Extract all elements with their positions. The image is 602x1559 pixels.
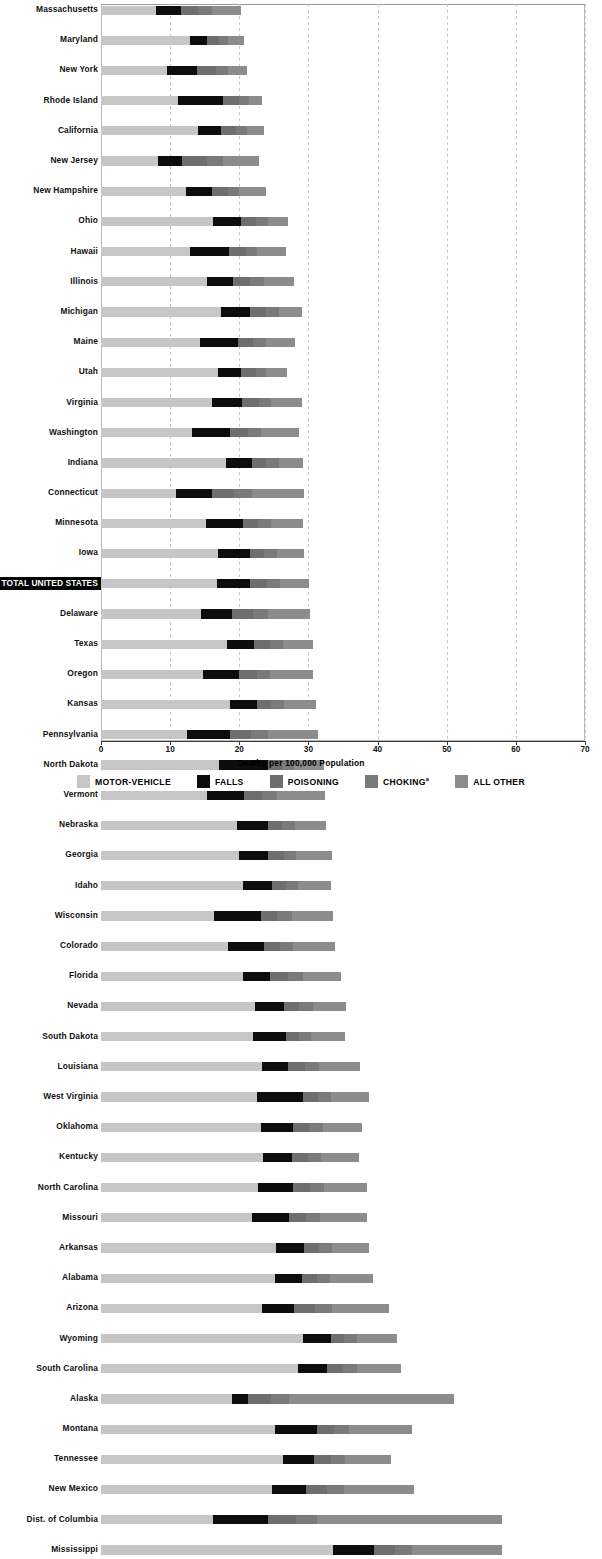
row-label: Missouri: [62, 1212, 98, 1223]
stacked-bar: [101, 519, 303, 528]
bar-segment-fa: [258, 1183, 293, 1192]
bar-segment-ao: [321, 1153, 359, 1162]
row-label: Tennessee: [54, 1453, 98, 1464]
bar-segment-fa: [207, 277, 233, 286]
bar-segment-po: [293, 1183, 310, 1192]
legend-item-ch[interactable]: CHOKINGa: [365, 775, 429, 788]
bar-segment-ch: [262, 791, 277, 800]
bar-segment-ch: [306, 1213, 321, 1222]
bar-segment-fa: [255, 1002, 283, 1011]
row-label: Indiana: [68, 457, 98, 468]
bar-row: Virginia: [0, 397, 602, 412]
bar-row: New Jersey: [0, 155, 602, 170]
bar-segment-ch: [266, 458, 278, 467]
stacked-bar: [101, 1123, 362, 1132]
stacked-bar: [101, 1515, 502, 1524]
stacked-bar: [101, 458, 303, 467]
bar-segment-fa: [207, 791, 244, 800]
legend-label: CHOKINGa: [383, 776, 429, 787]
row-label: Oregon: [67, 668, 98, 679]
bar-segment-ch: [309, 1123, 323, 1132]
bar-segment-po: [242, 398, 259, 407]
legend-item-po[interactable]: POISONING: [270, 775, 339, 788]
legend-item-ao[interactable]: ALL OTHER: [455, 775, 525, 788]
stacked-bar: [101, 247, 286, 256]
bar-segment-ch: [395, 1545, 412, 1554]
bar-segment-ch: [317, 1274, 330, 1283]
bar-segment-ao: [280, 579, 309, 588]
row-label: New Mexico: [49, 1483, 98, 1494]
bar-segment-mv: [101, 428, 192, 437]
bar-segment-ch: [257, 670, 271, 679]
bar-segment-po: [212, 187, 227, 196]
bar-segment-fa: [275, 1274, 302, 1283]
row-label: Minnesota: [55, 517, 98, 528]
bar-segment-po: [331, 1334, 345, 1343]
bar-segment-fa: [257, 1092, 303, 1101]
bar-segment-mv: [101, 1002, 255, 1011]
row-label: South Dakota: [42, 1031, 98, 1042]
legend-item-mv[interactable]: MOTOR-VEHICLE: [77, 775, 171, 788]
bar-segment-po: [243, 519, 258, 528]
bar-segment-mv: [101, 821, 237, 830]
stacked-bar: [101, 1092, 369, 1101]
bar-row: Iowa: [0, 547, 602, 562]
row-label: Vermont: [63, 789, 98, 800]
bar-segment-ch: [305, 1062, 319, 1071]
row-label: Delaware: [60, 608, 98, 619]
bar-row: New Mexico: [0, 1483, 602, 1498]
bar-segment-ao: [349, 1425, 412, 1434]
row-label: Pennsylvania: [43, 729, 98, 740]
bar-segment-mv: [101, 911, 214, 920]
bar-segment-ao: [303, 972, 341, 981]
bar-segment-fa: [203, 670, 239, 679]
bar-segment-fa: [239, 851, 267, 860]
stacked-bar: [101, 972, 341, 981]
stacked-bar: [101, 307, 302, 316]
bar-segment-ao: [311, 1032, 345, 1041]
legend-swatch-po: [270, 775, 283, 788]
stacked-bar: [101, 821, 326, 830]
row-label: Maryland: [60, 34, 98, 45]
bar-segment-mv: [101, 1425, 275, 1434]
bar-segment-mv: [101, 1485, 272, 1494]
bar-segment-ch: [308, 1153, 321, 1162]
bar-segment-fa: [212, 398, 242, 407]
bar-row: Montana: [0, 1423, 602, 1438]
bar-segment-ch: [266, 307, 279, 316]
bar-segment-ao: [323, 1123, 362, 1132]
bar-segment-fa: [187, 730, 230, 739]
bar-segment-fa: [253, 1032, 286, 1041]
bar-segment-ch: [315, 1304, 332, 1313]
bar-segment-ch: [270, 640, 283, 649]
bar-segment-fa: [226, 458, 252, 467]
bar-row: Utah: [0, 366, 602, 381]
row-label: West Virginia: [43, 1091, 98, 1102]
bar-row: Idaho: [0, 880, 602, 895]
bar-segment-po: [241, 217, 256, 226]
bar-segment-po: [293, 1123, 309, 1132]
bar-segment-ao: [261, 428, 299, 437]
bar-segment-fa: [156, 6, 180, 15]
legend-item-fa[interactable]: FALLS: [197, 775, 244, 788]
row-label: Utah: [79, 366, 98, 377]
bar-segment-ao: [266, 338, 296, 347]
row-label: Florida: [69, 970, 98, 981]
row-label: Georgia: [65, 849, 98, 860]
bar-segment-ao: [279, 307, 302, 316]
bar-row: Arkansas: [0, 1242, 602, 1257]
bar-segment-ao: [277, 791, 325, 800]
bar-row: Wyoming: [0, 1333, 602, 1348]
bar-segment-mv: [101, 398, 212, 407]
stacked-bar: [101, 1032, 345, 1041]
bar-segment-fa: [218, 549, 250, 558]
row-label: Illinois: [70, 276, 98, 287]
stacked-bar: [101, 1153, 359, 1162]
bar-row: Michigan: [0, 306, 602, 321]
stacked-bar: [101, 1274, 373, 1283]
bar-segment-ch: [259, 398, 271, 407]
bar-segment-fa: [243, 881, 272, 890]
bar-segment-fa: [176, 489, 213, 498]
bar-row: New Hampshire: [0, 185, 602, 200]
